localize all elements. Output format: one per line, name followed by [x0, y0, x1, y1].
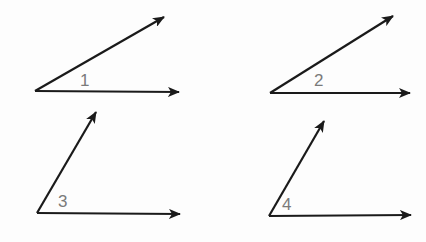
angle-label-3: 3 [58, 193, 67, 210]
angles-diagram: 1 2 3 4 [0, 0, 426, 242]
angle-3-ray-b [37, 213, 180, 214]
angle-label-1: 1 [80, 72, 89, 89]
angle-1-ray-a [35, 17, 164, 91]
angle-2-ray-a [270, 16, 393, 93]
angle-label-4: 4 [282, 196, 291, 213]
angle-label-2: 2 [314, 72, 323, 89]
angle-1-ray-b [35, 91, 179, 92]
angle-4-ray-b [269, 215, 411, 216]
angle-4-ray-a [269, 121, 324, 216]
